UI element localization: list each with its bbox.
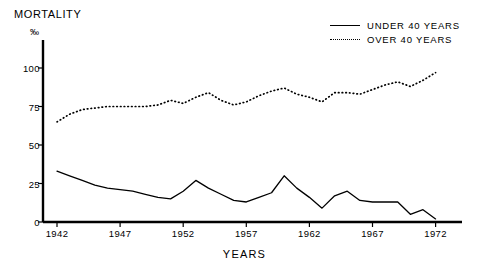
x-axis-title: YEARS: [0, 248, 489, 260]
axes: [38, 40, 462, 227]
legend-item-over-40: OVER 40 YEARS: [330, 32, 460, 46]
legend-label-over-40: OVER 40 YEARS: [367, 34, 452, 45]
legend-line-dotted-icon: [330, 34, 360, 44]
legend-label-under-40: UNDER 40 YEARS: [367, 20, 460, 31]
legend: UNDER 40 YEARS OVER 40 YEARS: [330, 18, 460, 46]
legend-line-solid-icon: [330, 20, 360, 30]
mortality-chart: MORTALITY ‰ 0255075100 19421947195219571…: [0, 0, 489, 270]
series-line-over-40: [57, 73, 436, 122]
data-series: [57, 73, 436, 219]
series-line-under-40: [57, 171, 436, 219]
legend-item-under-40: UNDER 40 YEARS: [330, 18, 460, 32]
